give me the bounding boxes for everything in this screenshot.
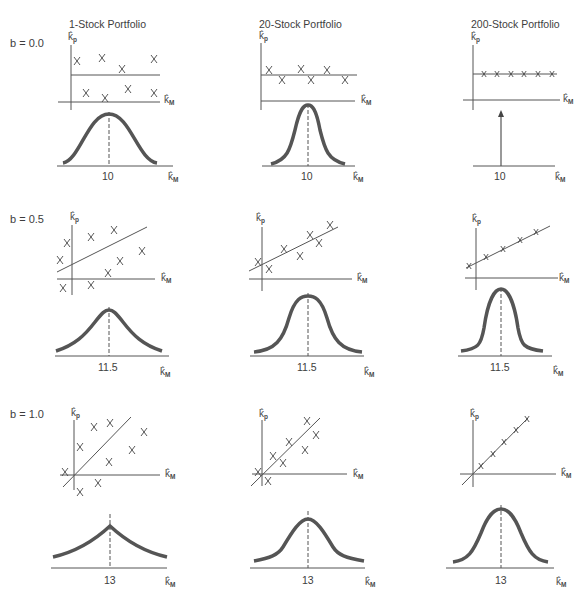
column-title-1stock: 1-Stock Portfolio [69, 18, 146, 30]
mean-label-20stock-b10: 13 [302, 574, 314, 586]
beta-label-row1: b = 0.0 [10, 37, 44, 49]
x-axis-label: k̂M [555, 172, 565, 185]
mean-label-1stock-b10: 13 [104, 574, 116, 586]
mean-label-200stock-b0: 10 [494, 170, 506, 182]
distribution-1stock-b10 [51, 514, 167, 568]
y-axis-label: k̂p [259, 409, 268, 422]
y-axis-label: k̂p [470, 409, 479, 422]
x-axis-label: k̂M [161, 273, 171, 286]
x-axis-label: k̂M [553, 366, 563, 379]
y-axis-label: k̂p [68, 32, 77, 45]
distribution-1stock-b05 [55, 307, 169, 356]
x-axis-label: k̂M [361, 95, 371, 108]
x-axis-label: k̂M [165, 469, 175, 482]
x-axis-label: k̂M [353, 172, 363, 185]
x-axis-label: k̂M [364, 367, 374, 380]
x-axis-label: k̂M [365, 577, 375, 590]
y-axis-label: k̂p [472, 214, 481, 227]
scatter-1stock-b05 [57, 225, 155, 295]
mean-label-20stock-b0: 10 [301, 170, 313, 182]
distribution-200stock-b10 [446, 505, 554, 568]
distribution-200stock-b0 [473, 110, 555, 166]
x-axis-label: k̂M [353, 469, 363, 482]
scatter-200stock-b05 [465, 226, 558, 290]
portfolio-diagram [0, 0, 577, 592]
beta-label-row3: b = 1.0 [10, 408, 44, 420]
column-title-200stock: 200-Stock Portfolio [471, 18, 560, 30]
x-axis-label: k̂M [164, 95, 174, 108]
mean-label-200stock-b10: 13 [495, 574, 507, 586]
scatter-1stock-b10 [60, 417, 160, 490]
data-points [57, 54, 554, 496]
distribution-200stock-b05 [458, 288, 552, 356]
scatter-20stock-b10 [251, 418, 347, 486]
x-axis-label: k̂M [160, 367, 170, 380]
distribution-20stock-b05 [250, 293, 364, 356]
x-axis-label: k̂M [168, 172, 178, 185]
beta-label-row2: b = 0.5 [10, 213, 44, 225]
distribution-20stock-b10 [250, 511, 365, 568]
column-title-20stock: 20-Stock Portfolio [259, 18, 342, 30]
x-axis-label: k̂M [556, 577, 566, 590]
x-axis-label: k̂M [559, 273, 569, 286]
x-axis-label: k̂M [165, 577, 175, 590]
y-axis-label: k̂p [70, 212, 79, 225]
y-axis-label: k̂p [471, 32, 480, 45]
x-axis-label: k̂M [563, 94, 573, 107]
scatter-200stock-b10 [460, 418, 556, 487]
scatter-1stock-b0 [58, 45, 160, 110]
y-axis-label: k̂p [259, 31, 268, 44]
mean-label-200stock-b05: 11.5 [490, 361, 510, 373]
mean-label-20stock-b05: 11.5 [297, 361, 317, 373]
distribution-20stock-b0 [262, 104, 355, 166]
x-axis-label: k̂M [357, 273, 367, 286]
scatter-200stock-b0 [463, 45, 560, 110]
scatter-20stock-b05 [249, 227, 352, 291]
x-axis-label: k̂M [561, 468, 571, 481]
distribution-1stock-b0 [57, 112, 173, 166]
y-axis-label: k̂p [71, 408, 80, 421]
mean-label-1stock-b05: 11.5 [98, 361, 118, 373]
y-axis-label: k̂p [256, 213, 265, 226]
mean-label-1stock-b0: 10 [102, 170, 114, 182]
